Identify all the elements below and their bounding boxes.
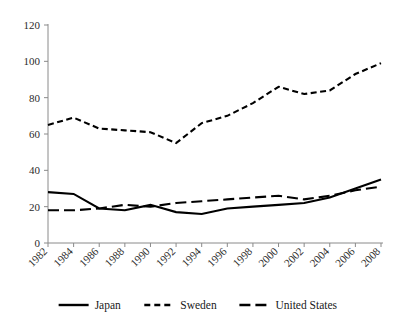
- x-tick-label: 1992: [153, 245, 177, 269]
- y-tick-label: 120: [24, 19, 41, 31]
- x-tick-label: 1998: [230, 245, 254, 269]
- legend-label-sweden: Sweden: [180, 299, 217, 311]
- y-tick-label: 40: [29, 164, 41, 176]
- x-tick-label: 1982: [25, 245, 49, 269]
- chart-legend: JapanSwedenUnited States: [59, 299, 338, 312]
- y-tick-label: 80: [29, 92, 41, 104]
- x-tick-label: 1988: [102, 245, 126, 269]
- x-tick-label: 2002: [282, 245, 306, 269]
- x-tick-label: 1984: [51, 245, 75, 269]
- x-tick-label: 1994: [179, 245, 203, 269]
- legend-label-united-states: United States: [275, 299, 337, 311]
- series-line-sweden: [48, 63, 381, 143]
- x-tick-label: 2004: [307, 245, 331, 269]
- legend-label-japan: Japan: [95, 299, 121, 312]
- x-tick-label: 1990: [128, 245, 152, 269]
- x-axis: 1982198419861988199019921994199619982000…: [25, 243, 383, 269]
- chart-figure: 020406080100120 198219841986198819901992…: [0, 0, 399, 327]
- x-tick-label: 2006: [333, 245, 357, 269]
- data-series-group: [48, 63, 381, 214]
- y-axis: 020406080100120: [24, 19, 49, 249]
- x-tick-label: 2008: [358, 245, 382, 269]
- line-chart: 020406080100120 198219841986198819901992…: [0, 0, 399, 327]
- y-tick-label: 20: [29, 201, 41, 213]
- x-tick-label: 1996: [205, 245, 229, 269]
- x-tick-label: 1986: [77, 245, 101, 269]
- y-tick-label: 60: [29, 128, 41, 140]
- y-tick-label: 100: [24, 55, 41, 67]
- x-tick-label: 2000: [256, 245, 280, 269]
